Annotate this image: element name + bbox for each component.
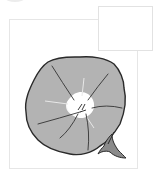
morning-glory-illustration [0, 0, 159, 181]
